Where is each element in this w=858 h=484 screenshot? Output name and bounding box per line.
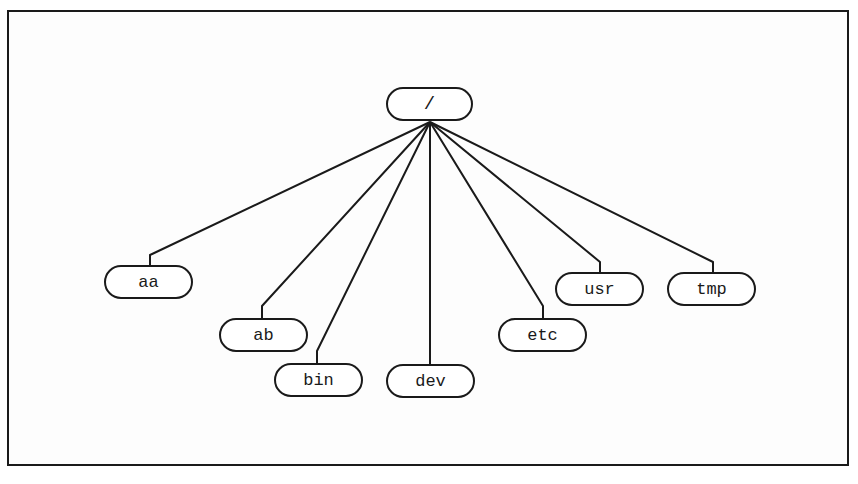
edge-root-tmp <box>430 122 713 272</box>
edge-root-bin <box>317 122 430 363</box>
node-ab-label: ab <box>253 326 273 345</box>
edge-root-ab <box>262 122 430 318</box>
node-usr[interactable]: usr <box>555 272 644 306</box>
tree-edges <box>0 0 858 484</box>
node-root-label: / <box>424 93 435 115</box>
node-etc-label: etc <box>527 326 558 345</box>
node-bin-label: bin <box>303 371 334 390</box>
edge-root-usr <box>430 122 600 272</box>
edge-root-etc <box>430 122 543 318</box>
node-tmp[interactable]: tmp <box>667 272 756 306</box>
node-ab[interactable]: ab <box>219 318 308 352</box>
node-aa[interactable]: aa <box>104 265 193 299</box>
node-tmp-label: tmp <box>696 280 727 299</box>
node-dev[interactable]: dev <box>386 364 475 398</box>
node-aa-label: aa <box>138 273 158 292</box>
node-etc[interactable]: etc <box>498 318 587 352</box>
node-root[interactable]: / <box>386 87 473 121</box>
node-dev-label: dev <box>415 372 446 391</box>
node-usr-label: usr <box>584 280 615 299</box>
node-bin[interactable]: bin <box>274 363 363 397</box>
edge-root-aa <box>150 122 430 265</box>
